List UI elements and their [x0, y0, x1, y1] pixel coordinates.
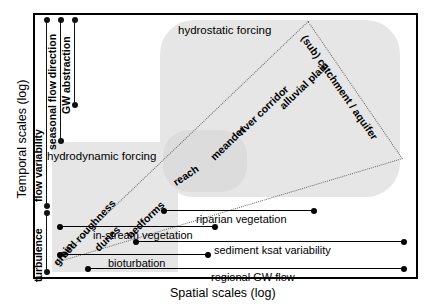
label-regional-gw-flow: regional GW flow [211, 271, 295, 283]
label-gw-abstraction: GW abstraction [60, 36, 72, 114]
label-hydrostatic-forcing: hydrostatic forcing [178, 24, 271, 36]
range-sediment-ksat-variability [136, 241, 404, 242]
label-flow-variability: flow variability [32, 129, 44, 202]
y-axis-title: Temporal scales (log) [15, 59, 29, 219]
range-in-stream-vegetation [60, 226, 215, 227]
label-riparian-vegetation: riparian vegetation [196, 213, 287, 225]
range-regional-gw-flow [88, 268, 404, 269]
label-turbulence: turbulence [32, 228, 44, 282]
x-axis-title: Spatial scales (log) [170, 286, 276, 300]
label-in-stream-vegetation: in-stream vegetation [93, 229, 193, 241]
scales-diagram: Temporal scales (log) Spatial scales (lo… [0, 0, 428, 308]
label-sediment-ksat-variability: sediment ksat variability [214, 244, 331, 256]
label-hydrodynamic-forcing: hydrodynamic forcing [47, 150, 156, 162]
label-seasonal-flow-direction: seasonal flow direction [46, 34, 58, 150]
range-bioturbation [60, 254, 208, 255]
bracket-gw-abstraction [74, 20, 75, 105]
bracket-turbulence [46, 213, 47, 272]
range-riparian-vegetation [164, 210, 314, 211]
